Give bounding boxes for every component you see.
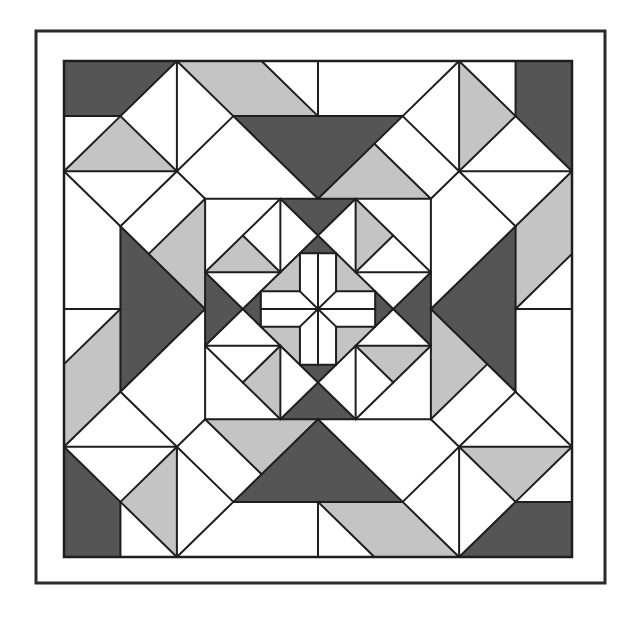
quilt-block: [64, 61, 572, 557]
quilt-artwork: [0, 0, 640, 619]
